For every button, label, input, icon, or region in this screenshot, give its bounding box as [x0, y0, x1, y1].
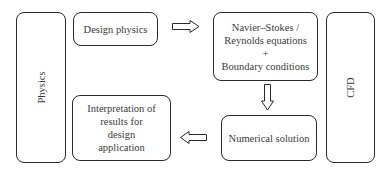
arrow-left-icon [180, 131, 207, 144]
physics-label: Physics [35, 71, 48, 103]
equations-node: Navier–Stokes / Reynolds equations + Bou… [213, 12, 318, 81]
cfd-group-box: CFD [326, 12, 375, 163]
equations-line-4: Boundary conditions [222, 60, 310, 73]
physics-group-box: Physics [16, 12, 66, 163]
equations-line-1: Navier–Stokes / [222, 21, 310, 34]
interpretation-line-1: Interpretation of [87, 102, 156, 115]
numerical-solution-node: Numerical solution [221, 115, 317, 161]
interpretation-line-2: results for [87, 115, 156, 128]
interpretation-line-4: application [87, 141, 156, 154]
design-physics-node: Design physics [73, 12, 158, 46]
cfd-label: CFD [344, 77, 357, 97]
design-physics-text: Design physics [84, 23, 148, 36]
arrow-right-icon [172, 20, 200, 33]
interpretation-line-3: design [87, 128, 156, 141]
arrow-down-icon [261, 84, 274, 111]
interpretation-node: Interpretation of results for design app… [72, 95, 171, 161]
equations-line-3: + [222, 47, 310, 60]
numerical-solution-text: Numerical solution [229, 132, 310, 145]
equations-line-2: Reynolds equations [222, 34, 310, 47]
